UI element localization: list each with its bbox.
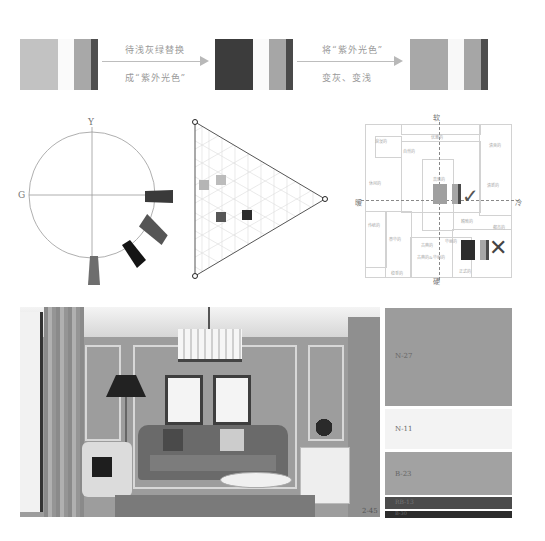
arrow-1-top-caption: 待浅灰绿替换: [125, 43, 185, 56]
scale-label: 精致的: [461, 218, 473, 224]
rug: [115, 495, 315, 517]
scale-label: 高雅的: [433, 176, 445, 182]
scale-region: [385, 211, 412, 277]
swatch-original-main: [20, 39, 58, 90]
scale-label: 古典的: [421, 242, 433, 248]
arrow-2-line: [297, 61, 396, 62]
scale-label: 正式的: [459, 268, 471, 274]
arrow-1-line: [102, 61, 202, 62]
scale-label: 传统的: [368, 222, 380, 228]
palette-swatch-rb13: RB-13: [385, 497, 512, 509]
hue-circle-svg: [15, 115, 190, 285]
scale-label: 稳重的: [391, 270, 403, 276]
sofa-pillow: [220, 429, 244, 451]
palette-swatch-b23: B-23: [385, 452, 512, 495]
scale-label: 清爽的: [489, 142, 501, 148]
swatch-adjusted-main: [410, 39, 448, 90]
scale-label: 优雅的: [431, 134, 443, 140]
sofa-seat: [150, 455, 276, 471]
scale-axis-top-label: 软: [433, 112, 440, 122]
tone-triangle-svg: [190, 118, 330, 283]
scale-label: 华丽的: [445, 238, 457, 244]
swatch-replaced-dark: [286, 39, 293, 90]
arrow-2-bottom-caption: 变灰、变浅: [322, 71, 372, 84]
painting-left: [165, 375, 203, 425]
scale-label: 古典的&华丽的: [417, 254, 445, 260]
swatch-adjusted-dark: [481, 39, 488, 90]
check-mark-icon: ✓: [462, 186, 479, 206]
palette-code: B-23: [395, 470, 412, 478]
scale-label: 都市的: [493, 224, 505, 230]
palette-code: N-11: [395, 425, 412, 433]
swatch-original-dark: [91, 39, 98, 90]
chandelier-rod: [208, 307, 210, 329]
swatch-original-light: [58, 39, 74, 90]
curtain: [44, 307, 84, 517]
scale-label: 豪华的: [389, 236, 401, 242]
palette-swatch-n27: N-27: [385, 308, 512, 406]
cross-mark-icon: ✕: [489, 237, 507, 259]
hue-axis-top-label: Y: [88, 117, 94, 127]
good-swatch-dark: [458, 184, 461, 204]
palette-swatch-n11: N-11: [385, 409, 512, 449]
hue-circle-diagram: Y G: [15, 115, 190, 285]
scale-region: [479, 124, 511, 216]
scale-region: [365, 211, 387, 268]
scale-label: 清新的: [487, 182, 499, 188]
chandelier: [178, 329, 242, 362]
swatch-adjusted-light: [448, 39, 464, 90]
swatch-replaced-mid: [269, 39, 286, 90]
hue-axis-left-label: G: [18, 190, 25, 200]
scale-axis-left-label: 暖: [355, 197, 362, 207]
palette-code: RB-13: [395, 498, 414, 505]
sofa-pillow: [163, 429, 183, 451]
painting-right: [213, 375, 251, 425]
scale-label: 自然的: [403, 148, 415, 154]
arrow-2-top-caption: 将“紫外光色”: [322, 43, 383, 56]
window: [20, 312, 43, 512]
swatch-replaced-main: [215, 39, 253, 90]
arrow-2-head: [394, 56, 403, 66]
image-scale-diagram: 软 硬 暖 冷 浪漫的 自然的 优雅的 清爽的 休闲的 高雅的 清新的 传统的 …: [355, 112, 530, 292]
palette-code: B-30: [395, 510, 407, 516]
swatch-replaced-light: [253, 39, 269, 90]
figure-label: 2-45: [362, 507, 378, 515]
palette-code: N-27: [395, 352, 412, 360]
good-swatch-main: [433, 184, 447, 204]
coffee-table: [220, 472, 292, 488]
room-rendering: 2-45: [20, 307, 380, 517]
armchair-pillow: [92, 457, 112, 477]
arrow-1-head: [200, 56, 209, 66]
arrow-1-bottom-caption: 成“紫外光色”: [125, 71, 186, 84]
tone-triangle-diagram: [190, 118, 330, 283]
bad-swatch-main: [461, 240, 475, 260]
scale-label: 休闲的: [369, 180, 381, 186]
palette-swatch-b30: B-30: [385, 511, 512, 518]
vase-flowers: [316, 419, 332, 447]
swatch-original-mid: [74, 39, 91, 90]
scale-axis-right-label: 冷: [515, 197, 522, 207]
scale-label: 浪漫的: [375, 138, 387, 144]
right-wall: [348, 317, 380, 517]
swatch-adjusted-mid: [464, 39, 481, 90]
